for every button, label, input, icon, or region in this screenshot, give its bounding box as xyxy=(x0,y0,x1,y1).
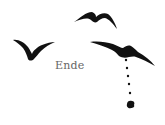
dropping-trail-icon xyxy=(125,59,131,94)
ende-label: Ende xyxy=(55,59,84,72)
bird-right-icon xyxy=(90,42,155,66)
splat-icon xyxy=(127,101,135,109)
bird-left-icon xyxy=(13,40,55,61)
bird-top-icon xyxy=(74,12,117,29)
